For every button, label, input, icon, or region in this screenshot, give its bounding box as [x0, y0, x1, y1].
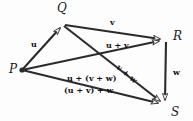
vector-diagram-canvas [0, 0, 193, 121]
vector-label-sum-left-assoc: (u + v) + w [64, 86, 113, 94]
vector-line-w [165, 42, 166, 100]
vector-label-u-plus-v: u + v [106, 41, 129, 49]
vector-label-w: w [173, 68, 180, 76]
vertex-label-P: P [9, 63, 17, 75]
vector-label-u: u [31, 40, 37, 48]
vertex-label-Q: Q [57, 2, 67, 14]
vertex-label-S: S [171, 106, 179, 118]
vector-line-u-plus-v [22, 41, 159, 70]
vertex-label-R: R [173, 30, 182, 42]
vector-diagram: P Q R S u v w u + v v + w u + (v + w) (u… [0, 0, 193, 121]
vector-label-sum-right-assoc: u + (v + w) [67, 74, 116, 82]
vertex-dot-P [19, 67, 24, 72]
vector-label-v: v [110, 18, 115, 26]
